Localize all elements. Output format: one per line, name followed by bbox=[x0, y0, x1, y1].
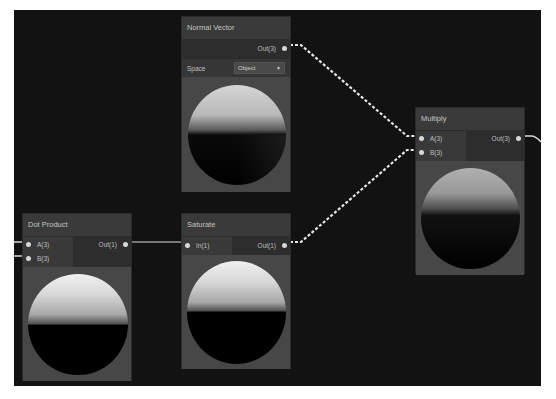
preview bbox=[182, 255, 290, 369]
triangle-down-icon: ▼ bbox=[276, 63, 281, 73]
port-in-a[interactable]: A(3) bbox=[416, 133, 466, 144]
node-dot-product[interactable]: Dot Product A(3) B(3) Out(1) bbox=[22, 213, 132, 381]
port-dot[interactable] bbox=[26, 242, 31, 247]
port-out[interactable]: Out(1) bbox=[232, 240, 290, 251]
ports-row: A(3) B(3) Out(1) bbox=[23, 237, 131, 267]
port-out[interactable]: Out(3) bbox=[182, 43, 290, 54]
ports-row: A(3) B(3) Out(3) bbox=[416, 131, 524, 161]
preview-sphere bbox=[28, 274, 128, 375]
node-title: Multiply bbox=[416, 108, 524, 131]
port-dot[interactable] bbox=[282, 243, 287, 248]
node-title: Saturate bbox=[182, 214, 290, 237]
port-out[interactable]: Out(3) bbox=[466, 133, 524, 144]
node-multiply[interactable]: Multiply A(3) B(3) Out(3) bbox=[415, 107, 525, 274]
node-normal-vector[interactable]: Normal Vector Out(3) Space Object ▼ bbox=[181, 16, 291, 192]
port-dot[interactable] bbox=[26, 256, 31, 261]
port-dot[interactable] bbox=[419, 150, 424, 155]
port-in[interactable]: In(1) bbox=[182, 240, 232, 251]
space-dropdown[interactable]: Object ▼ bbox=[234, 62, 285, 74]
setting-label: Space bbox=[187, 65, 205, 72]
ports-row: In(1) Out(1) bbox=[182, 237, 290, 255]
preview bbox=[23, 267, 131, 381]
graph-canvas[interactable]: Normal Vector Out(3) Space Object ▼ Mult… bbox=[14, 10, 541, 386]
ports-row: Out(3) bbox=[182, 40, 290, 58]
port-dot[interactable] bbox=[123, 242, 128, 247]
preview-sphere bbox=[187, 261, 286, 364]
port-out[interactable]: Out(1) bbox=[73, 239, 131, 250]
node-title: Dot Product bbox=[23, 214, 131, 237]
node-saturate[interactable]: Saturate In(1) Out(1) bbox=[181, 213, 291, 369]
port-in-b[interactable]: B(3) bbox=[23, 253, 73, 264]
port-dot[interactable] bbox=[419, 136, 424, 141]
port-in-a[interactable]: A(3) bbox=[23, 239, 73, 250]
port-dot[interactable] bbox=[185, 243, 190, 248]
setting-space: Space Object ▼ bbox=[182, 58, 290, 77]
preview bbox=[182, 77, 290, 192]
port-dot[interactable] bbox=[282, 46, 287, 51]
port-in-b[interactable]: B(3) bbox=[416, 147, 466, 158]
edge-normal-to-multiply-a[interactable] bbox=[290, 45, 418, 136]
preview-sphere bbox=[421, 168, 520, 269]
preview bbox=[416, 161, 524, 275]
port-dot[interactable] bbox=[516, 136, 521, 141]
node-title: Normal Vector bbox=[182, 17, 290, 40]
edge-saturate-to-multiply-b[interactable] bbox=[290, 150, 418, 242]
